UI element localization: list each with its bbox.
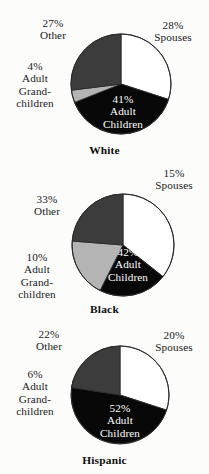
label-white-adult-grandchildren: 4% Adult Grand- children <box>2 60 68 110</box>
pie-chart-hispanic: 22% Other 20% Spouses 6% Adult Grand- ch… <box>0 320 209 474</box>
label-white-children-line1: Adult <box>95 105 151 117</box>
label-hispanic-children-pct: 52% <box>92 402 148 414</box>
label-black-adult-children: 42% Adult Children <box>100 246 156 283</box>
pie-white-title: White <box>0 144 209 156</box>
label-black-grand-line3: children <box>2 288 72 300</box>
label-white-other-name: Other <box>14 29 92 41</box>
label-hispanic-adult-children: 52% Adult Children <box>92 402 148 439</box>
label-white-adult-children: 41% Adult Children <box>95 93 151 130</box>
label-white-grand-line1: Adult <box>2 72 68 84</box>
label-black-children-line1: Adult <box>100 258 156 270</box>
label-black-grand-line2: Grand- <box>2 276 72 288</box>
label-hispanic-adult-grandchildren: 6% Adult Grand- children <box>2 368 68 418</box>
label-black-adult-grandchildren: 10% Adult Grand- children <box>2 251 72 301</box>
label-hispanic-grand-line1: Adult <box>2 380 68 392</box>
label-hispanic-other: 22% Other <box>12 328 86 353</box>
label-hispanic-spouses-pct: 20% <box>141 329 207 341</box>
label-hispanic-spouses-name: Spouses <box>141 341 207 353</box>
label-white-spouses-pct: 28% <box>140 19 206 31</box>
label-black-children-line2: Children <box>100 271 156 283</box>
label-white-other: 27% Other <box>14 17 92 42</box>
pie-chart-white: 27% Other 28% Spouses 4% Adult Grand- ch… <box>0 0 209 160</box>
label-black-spouses-name: Spouses <box>141 179 207 191</box>
label-black-grand-line1: Adult <box>2 263 72 275</box>
label-hispanic-spouses: 20% Spouses <box>141 329 207 354</box>
label-black-other: 33% Other <box>12 193 82 218</box>
label-hispanic-grand-line3: children <box>2 405 68 417</box>
label-black-spouses: 15% Spouses <box>141 167 207 192</box>
pie-chart-black: 15% Spouses 33% Other 10% Adult Grand- c… <box>0 160 209 320</box>
pie-hispanic-title: Hispanic <box>0 454 209 466</box>
label-black-other-pct: 33% <box>12 193 82 205</box>
label-white-grand-pct: 4% <box>2 60 68 72</box>
label-white-grand-line2: Grand- <box>2 85 68 97</box>
label-hispanic-children-line2: Children <box>92 427 148 439</box>
label-hispanic-children-line1: Adult <box>92 414 148 426</box>
label-white-other-pct: 27% <box>14 17 92 29</box>
label-black-other-name: Other <box>12 205 82 217</box>
label-white-children-pct: 41% <box>95 93 151 105</box>
label-black-grand-pct: 10% <box>2 251 72 263</box>
label-white-grand-line3: children <box>2 97 68 109</box>
label-hispanic-grand-pct: 6% <box>2 368 68 380</box>
pie-black-title: Black <box>0 303 209 315</box>
label-hispanic-other-pct: 22% <box>12 328 86 340</box>
label-hispanic-grand-line2: Grand- <box>2 393 68 405</box>
pie-chart-figure: 27% Other 28% Spouses 4% Adult Grand- ch… <box>0 0 209 474</box>
slice-hispanic-other[interactable] <box>72 346 120 395</box>
label-hispanic-other-name: Other <box>12 340 86 352</box>
label-white-spouses-name: Spouses <box>140 31 206 43</box>
label-white-children-line2: Children <box>95 118 151 130</box>
slice-white-other[interactable] <box>71 34 121 90</box>
label-black-children-pct: 42% <box>100 246 156 258</box>
label-black-spouses-pct: 15% <box>141 167 207 179</box>
label-white-spouses: 28% Spouses <box>140 19 206 44</box>
